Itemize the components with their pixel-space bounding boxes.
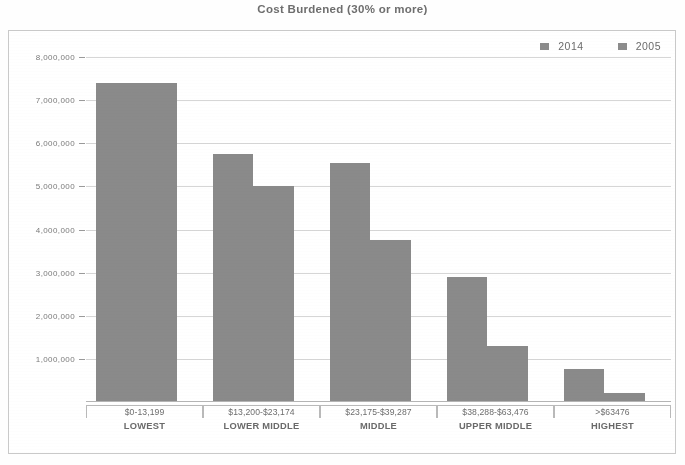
y-axis-tick: [79, 100, 85, 101]
y-axis-tick-label: 3,000,000: [36, 268, 75, 277]
y-axis-tick-label: 2,000,000: [36, 311, 75, 320]
y-axis-tick: [79, 230, 85, 231]
legend-swatch-icon: [540, 43, 549, 50]
category-range-label: $38,288-$63,476: [437, 405, 554, 418]
x-axis-category: $0-13,199LOWEST: [86, 405, 203, 447]
legend-item-2014[interactable]: 2014: [540, 40, 583, 52]
category-name-label: LOWER MIDDLE: [203, 421, 320, 431]
legend-label: 2014: [558, 40, 583, 52]
y-axis-tick-label: 8,000,000: [36, 53, 75, 62]
x-axis-category: $23,175-$39,287MIDDLE: [320, 405, 437, 447]
category-range-label: >$63476: [554, 405, 671, 418]
bar-2005[interactable]: [136, 83, 176, 402]
bar-2014[interactable]: [564, 369, 604, 402]
bar-group: [320, 57, 437, 402]
bar-2005[interactable]: [487, 346, 527, 402]
category-range-label: $13,200-$23,174: [203, 405, 320, 418]
bar-group: [86, 57, 203, 402]
x-axis-category: $13,200-$23,174LOWER MIDDLE: [203, 405, 320, 447]
bar-2014[interactable]: [213, 154, 253, 402]
legend-swatch-icon: [618, 43, 627, 50]
y-axis-tick-label: 7,000,000: [36, 96, 75, 105]
y-axis-tick-label: 6,000,000: [36, 139, 75, 148]
category-name-label: MIDDLE: [320, 421, 437, 431]
bar-group: [437, 57, 554, 402]
x-axis-category: $38,288-$63,476UPPER MIDDLE: [437, 405, 554, 447]
y-axis-tick: [79, 273, 85, 274]
y-axis-tick: [79, 57, 85, 58]
category-name-label: HIGHEST: [554, 421, 671, 431]
x-axis-category-labels: $0-13,199LOWEST$13,200-$23,174LOWER MIDD…: [86, 405, 671, 447]
bar-2005[interactable]: [370, 240, 410, 402]
chart-legend: 2014 2005: [540, 40, 661, 52]
bar-2005[interactable]: [253, 186, 293, 402]
y-axis-tick: [79, 316, 85, 317]
category-range-label: $23,175-$39,287: [320, 405, 437, 418]
y-axis-tick-label: 1,000,000: [36, 354, 75, 363]
legend-item-2005[interactable]: 2005: [618, 40, 661, 52]
y-axis-tick: [79, 359, 85, 360]
category-range-label: $0-13,199: [86, 405, 203, 418]
legend-label: 2005: [636, 40, 661, 52]
category-name-label: UPPER MIDDLE: [437, 421, 554, 431]
page-title: Cost Burdened (30% or more): [0, 3, 685, 15]
x-axis-category: >$63476HIGHEST: [554, 405, 671, 447]
y-axis-tick-label: 4,000,000: [36, 225, 75, 234]
bar-2014[interactable]: [447, 277, 487, 402]
bar-2014[interactable]: [330, 163, 370, 402]
category-name-label: LOWEST: [86, 421, 203, 431]
y-axis-tick: [79, 143, 85, 144]
bar-2014[interactable]: [96, 83, 136, 402]
y-axis-tick: [79, 186, 85, 187]
x-axis-line: [86, 401, 671, 402]
plot-area: 1,000,0002,000,0003,000,0004,000,0005,00…: [86, 57, 671, 402]
bar-group: [203, 57, 320, 402]
y-axis-tick-label: 5,000,000: [36, 182, 75, 191]
bar-group: [554, 57, 671, 402]
chart-frame: 2014 2005 1,000,0002,000,0003,000,0004,0…: [8, 30, 676, 454]
